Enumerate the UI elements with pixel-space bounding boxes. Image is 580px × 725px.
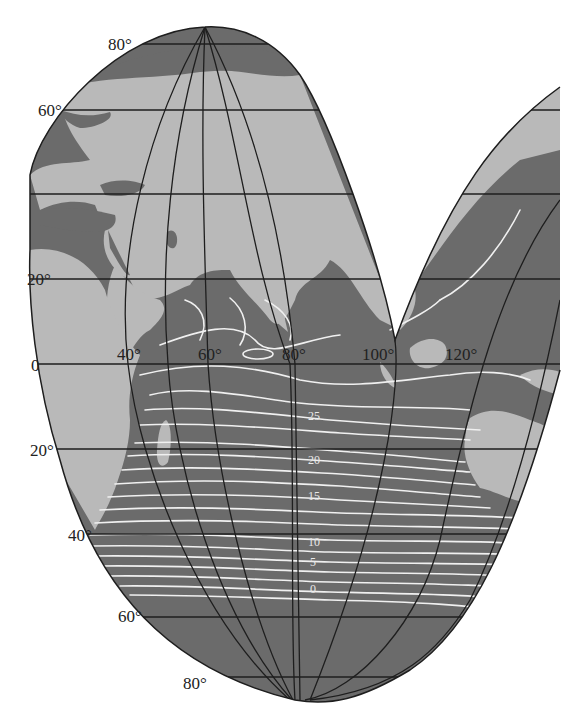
lon-label-120: 120° [445, 345, 477, 364]
lat-label-0: 0 [31, 356, 40, 375]
lat-label-80n: 80° [108, 35, 132, 54]
lat-label-40s: 40° [68, 526, 92, 545]
lon-label-60: 60° [198, 345, 222, 364]
lat-label-60s: 60° [118, 607, 142, 626]
lon-label-100: 100° [362, 345, 394, 364]
indian-ocean-isotherm-map: 80° 60° 20° 0 20° 40° 60° 80° 40° 60° 80… [0, 0, 580, 725]
isotherm-label-10: 10 [308, 535, 320, 549]
lat-label-80s: 80° [183, 674, 207, 693]
lat-label-20n: 20° [27, 270, 51, 289]
isotherm-label-25: 25 [308, 409, 320, 423]
isotherm-label-15: 15 [308, 489, 320, 503]
isotherm-label-20: 20 [308, 453, 320, 467]
lon-label-80: 80° [282, 345, 306, 364]
lat-label-20s: 20° [30, 441, 54, 460]
isotherm-label-0: 0 [310, 582, 316, 596]
isotherm-label-5: 5 [310, 555, 316, 569]
lon-label-40: 40° [117, 345, 141, 364]
lat-label-60n: 60° [38, 101, 62, 120]
